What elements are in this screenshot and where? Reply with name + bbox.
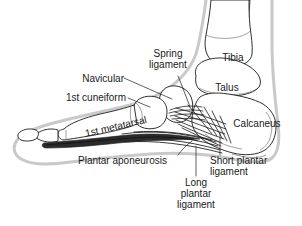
label-talus: Talus (204, 82, 250, 93)
label-calcaneus: Calcaneus (222, 118, 292, 129)
anatomy-diagram-figure: Spring ligament Navicular 1st cuneiform … (0, 0, 302, 226)
label-short-plantar-ligament: Short plantar ligament (210, 155, 267, 177)
label-tibia: Tibia (210, 52, 256, 63)
label-navicular: Navicular (56, 73, 124, 84)
phalanx-bones (18, 129, 58, 142)
foot-skeleton-illustration (0, 0, 302, 226)
label-plantar-aponeurosis: Plantar aponeurosis (78, 155, 167, 166)
label-first-cuneiform: 1st cuneiform (40, 92, 126, 103)
label-long-plantar-ligament: Long plantar ligament (168, 177, 224, 210)
label-spring-ligament: Spring ligament (138, 48, 198, 70)
